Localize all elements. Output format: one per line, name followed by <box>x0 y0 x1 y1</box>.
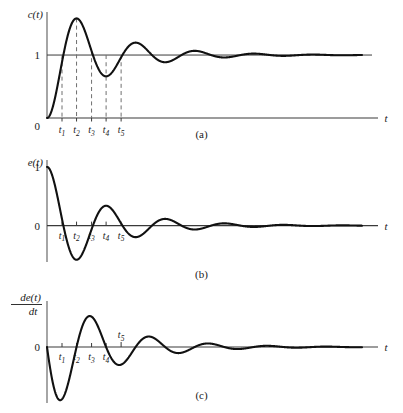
panel-a-level-value: 1 <box>35 49 41 61</box>
panel-b-origin-label: 0 <box>35 220 41 232</box>
panel-c-origin-label: 0 <box>35 341 41 353</box>
panel-c-y-label-denominator: dt <box>29 305 39 317</box>
panel-a-curve <box>47 18 362 118</box>
panel-b-error-signal: t1t2t3t4t5e(t)10t <box>0 150 403 285</box>
panel-c-x-label: t <box>384 341 388 353</box>
svg-text:t4: t4 <box>103 230 110 244</box>
panel-b-x-label: t <box>384 220 388 232</box>
panel-a-y-label: c(t) <box>28 8 44 21</box>
caption-a: (a) <box>0 128 403 140</box>
panel-b-curve <box>47 167 362 260</box>
svg-text:t5: t5 <box>118 329 125 343</box>
panel-c-y-label-numerator: de(t) <box>20 291 41 304</box>
caption-c: (c) <box>0 389 403 401</box>
caption-b: (b) <box>0 268 403 280</box>
panel-a-x-label: t <box>384 112 388 124</box>
svg-text:t2: t2 <box>73 230 80 244</box>
svg-text:t3: t3 <box>88 351 95 365</box>
svg-text:t1: t1 <box>59 351 66 365</box>
panel-b-level-value: 1 <box>35 161 41 173</box>
svg-text:t5: t5 <box>118 230 125 244</box>
panel-b-plot: t1t2t3t4t5e(t)10t <box>0 150 403 285</box>
figure-step-response-error-derivative: t1t2t3t4t5c(t)10t (a) t1t2t3t4t5e(t)10t … <box>0 0 403 413</box>
